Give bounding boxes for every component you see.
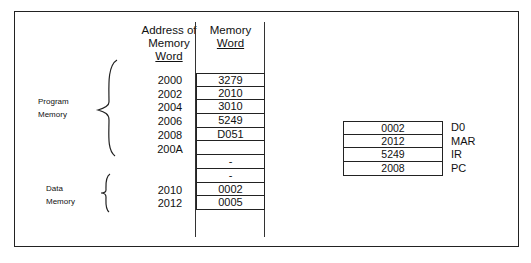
register-name: PC (451, 162, 475, 176)
memory-cell: 3010 (196, 100, 265, 114)
address-item: 2002 (150, 88, 190, 102)
memory-header-line2: Word (196, 37, 265, 50)
address-item: 2008 (150, 129, 190, 143)
memory-cell: 3279 (196, 73, 265, 87)
memory-cell: 5249 (196, 114, 265, 128)
program-brace-icon (95, 58, 125, 158)
program-label-line1: Program (38, 95, 69, 108)
address-item: 2000 (150, 74, 190, 88)
address-item: 2010 (150, 184, 190, 198)
address-item: 2004 (150, 101, 190, 115)
address-item: 2006 (150, 115, 190, 129)
address-header-line3: Word (130, 50, 208, 63)
register-boxes: 0002 2012 5249 2008 (343, 121, 443, 176)
program-memory-label: Program Memory (38, 95, 69, 121)
memory-cells: 3279 2010 3010 5249 D051 - - 0002 0005 (196, 73, 265, 210)
memory-cell: - (196, 169, 265, 183)
register-name: D0 (451, 121, 475, 135)
data-memory-label: Data Memory (46, 182, 75, 208)
register-name: MAR (451, 135, 475, 149)
memory-cell: 0002 (196, 183, 265, 197)
data-label-line1: Data (46, 182, 75, 195)
address-item (150, 170, 190, 184)
memory-cell: 0005 (196, 196, 265, 210)
memory-header-line1: Memory (196, 24, 265, 37)
register-name: IR (451, 148, 475, 162)
data-brace-icon (98, 172, 116, 214)
memory-cell: D051 (196, 128, 265, 142)
diagram-frame (14, 11, 519, 247)
register-pc-value: 2008 (343, 162, 443, 176)
memory-cell: - (196, 155, 265, 169)
memory-header: Memory Word (196, 24, 265, 50)
address-list: 2000 2002 2004 2006 2008 200A 2010 2012 (150, 74, 190, 211)
register-d0-value: 0002 (343, 121, 443, 135)
program-label-line2: Memory (38, 108, 69, 121)
register-names: D0 MAR IR PC (451, 121, 475, 176)
register-mar-value: 2012 (343, 135, 443, 149)
address-item: 2012 (150, 197, 190, 211)
memory-cell (196, 141, 265, 155)
address-item: 200A (150, 143, 190, 157)
memory-cell: 2010 (196, 87, 265, 101)
address-item (150, 156, 190, 170)
data-label-line2: Memory (46, 195, 75, 208)
register-ir-value: 5249 (343, 148, 443, 162)
